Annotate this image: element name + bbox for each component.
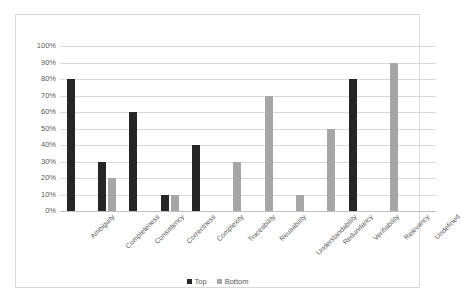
bar-bottom	[108, 178, 116, 211]
y-axis-tick-label: 40%	[22, 141, 56, 149]
bar-bottom	[265, 96, 273, 212]
bar-top	[67, 79, 75, 211]
chart-container: 100%90%80%70%60%50%40%30%20%10%0% Ambigu…	[15, 14, 420, 288]
legend-item[interactable]: Top	[187, 277, 207, 286]
y-axis-tick-label: 20%	[22, 174, 56, 182]
x-axis-tick-label: Completeness	[124, 213, 161, 250]
bar-top	[98, 162, 106, 212]
bar-group	[279, 46, 310, 211]
bar-group	[185, 46, 216, 211]
bar-top	[192, 145, 200, 211]
y-axis-tick-label: 50%	[22, 125, 56, 133]
bar-group	[91, 46, 122, 211]
y-axis-tick-label: 80%	[22, 75, 56, 83]
bar-group	[154, 46, 185, 211]
legend-label: Bottom	[225, 277, 249, 286]
bar-group	[311, 46, 342, 211]
y-axis-tick-label: 60%	[22, 108, 56, 116]
bar-bottom	[390, 63, 398, 212]
x-axis-tick-label: Ambiguity	[89, 213, 116, 240]
x-axis-tick-label: Complexity	[215, 213, 244, 242]
legend-swatch-icon	[187, 279, 192, 284]
bar-top	[349, 79, 357, 211]
y-axis-tick-label: 30%	[22, 158, 56, 166]
x-axis-tick-label: Traceability	[247, 213, 277, 243]
bar-group	[60, 46, 91, 211]
y-axis-tick-label: 100%	[22, 42, 56, 50]
plot-area	[60, 46, 436, 211]
bar-group	[373, 46, 404, 211]
bar-bottom	[233, 162, 241, 212]
bar-top	[129, 112, 137, 211]
bar-group	[217, 46, 248, 211]
legend-swatch-icon	[217, 279, 222, 284]
bar-group	[342, 46, 373, 211]
bar-bottom	[171, 195, 179, 212]
x-axis-tick-label: Relevancy	[403, 213, 431, 241]
bar-group	[248, 46, 279, 211]
bar-bottom	[327, 129, 335, 212]
y-axis-tick-label: 0%	[22, 207, 56, 215]
x-axis-tick-label: Verifiability	[371, 213, 400, 242]
x-axis-tick-labels: AmbiguityCompletenessConsistencyCorrectn…	[60, 213, 436, 275]
x-axis-tick-label: Undefined	[434, 213, 461, 241]
legend-label: Top	[195, 277, 207, 286]
legend-item[interactable]: Bottom	[217, 277, 249, 286]
y-axis-tick-label: 70%	[22, 92, 56, 100]
x-axis-tick-label: Correctness	[185, 213, 217, 245]
x-axis-tick-label: Reusability	[278, 213, 307, 242]
y-axis-tick-labels: 100%90%80%70%60%50%40%30%20%10%0%	[20, 46, 56, 211]
chart-legend: TopBottom	[16, 277, 419, 286]
bar-group	[123, 46, 154, 211]
x-axis-line	[60, 211, 436, 212]
bar-group	[405, 46, 436, 211]
bar-top	[161, 195, 169, 212]
bar-bottom	[296, 195, 304, 212]
y-axis-tick-label: 10%	[22, 191, 56, 199]
y-axis-tick-label: 90%	[22, 59, 56, 67]
